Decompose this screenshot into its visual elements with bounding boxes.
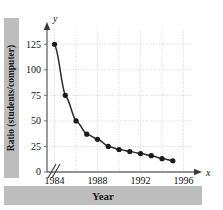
x-axis-name: x (205, 167, 211, 178)
data-point (138, 151, 143, 156)
y-tick-label: 75 (31, 90, 41, 101)
y-axis-name: y (52, 13, 58, 24)
y-tick-label: 25 (31, 141, 41, 152)
data-point (116, 147, 121, 152)
y-tick-label: 100 (26, 64, 41, 75)
data-series (52, 42, 175, 164)
y-tick-label: 0 (36, 166, 41, 177)
data-point (95, 137, 100, 142)
x-tick-label: 1984 (45, 175, 65, 186)
data-point (149, 153, 154, 158)
x-tick-labels: 1984198819921996 (45, 175, 194, 186)
y-tick-labels: 0255075100125 (26, 39, 47, 178)
data-point (52, 42, 57, 47)
data-point (73, 118, 78, 123)
data-point (106, 144, 111, 149)
data-point (84, 132, 89, 137)
y-tick-label: 50 (31, 115, 41, 126)
data-markers (52, 42, 175, 164)
data-point (170, 158, 175, 163)
y-tick-label: 125 (26, 39, 41, 50)
x-tick-label: 1996 (174, 175, 194, 186)
x-tick-label: 1992 (131, 175, 151, 186)
data-point (159, 156, 164, 161)
plot-area: y x 0255075100125 1984198819921996 (0, 0, 223, 210)
y-axis: y (44, 13, 58, 172)
data-point (63, 93, 68, 98)
data-point (127, 149, 132, 154)
x-tick-label: 1988 (88, 175, 108, 186)
chart-figure: Ratio (students/computer) Year y x 02550… (0, 0, 223, 210)
